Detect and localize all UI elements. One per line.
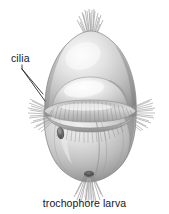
cilia-leader-lines (22, 65, 45, 101)
label-cilia: cilia (11, 52, 30, 64)
figure-caption: trochophore larva (0, 197, 169, 209)
trochophore-larva-illustration (0, 0, 169, 214)
figure-trochophore-larva: cilia trochophore larva (0, 0, 169, 214)
prototroch-highlight (60, 104, 112, 111)
